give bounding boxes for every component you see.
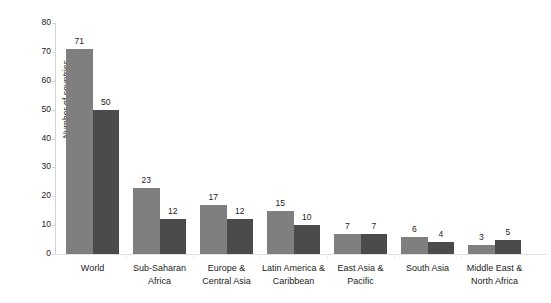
bar-group xyxy=(133,22,186,254)
x-axis-tick-mark xyxy=(394,255,395,259)
x-axis-category-label-line: Middle East & xyxy=(450,262,540,275)
bar-series-2[interactable] xyxy=(93,110,120,254)
x-axis-tick-mark xyxy=(193,255,194,259)
bar-series-2[interactable] xyxy=(428,242,455,254)
bar-group xyxy=(334,22,387,254)
bar-series-1[interactable] xyxy=(200,205,227,254)
bar-series-1[interactable] xyxy=(334,234,361,254)
bar-series-2[interactable] xyxy=(294,225,321,254)
x-axis-category-label-line: North Africa xyxy=(450,275,540,288)
bar-series-2[interactable] xyxy=(495,240,522,254)
bar-series-1[interactable] xyxy=(66,49,93,254)
x-axis-category-label-line: Pacific xyxy=(316,275,406,288)
x-axis-tick-mark xyxy=(126,255,127,259)
x-axis-category-label: Middle East &North Africa xyxy=(450,262,540,287)
bar-series-1[interactable] xyxy=(401,237,428,254)
bar-chart: Number of countries 01020304050607080 71… xyxy=(0,0,551,303)
bar-series-1[interactable] xyxy=(133,188,160,254)
bar-group xyxy=(267,22,320,254)
bar-group xyxy=(200,22,253,254)
bar-series-1[interactable] xyxy=(468,245,495,254)
bar-series-2[interactable] xyxy=(361,234,388,254)
bar-series-2[interactable] xyxy=(160,219,187,254)
bar-series-1[interactable] xyxy=(267,211,294,254)
plot-area: 7150World2312Sub-SaharanAfrica1712Europe… xyxy=(0,0,551,303)
bar-group xyxy=(66,22,119,254)
bar-group xyxy=(468,22,521,254)
x-axis-tick-mark xyxy=(260,255,261,259)
bar-series-2[interactable] xyxy=(227,219,254,254)
x-axis-tick-mark xyxy=(461,255,462,259)
bar-group xyxy=(401,22,454,254)
x-axis-tick-mark xyxy=(327,255,328,259)
